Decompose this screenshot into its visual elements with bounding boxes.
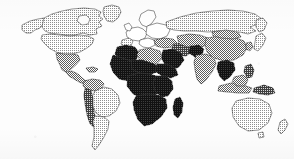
region-tasmania <box>258 132 264 138</box>
world-map-svg <box>0 0 294 159</box>
world-map-figure <box>0 0 294 159</box>
